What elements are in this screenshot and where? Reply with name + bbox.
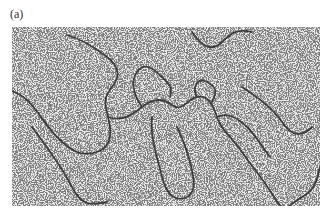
micrograph-texture [12,27,320,206]
micrograph-image [12,27,320,206]
panel-label: (a) [10,7,23,22]
